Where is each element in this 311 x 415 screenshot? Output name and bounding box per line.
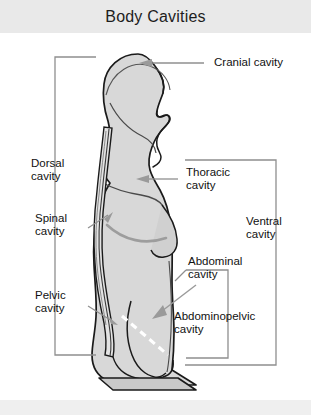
- label-spinal-cavity-line1: Spinal: [35, 212, 67, 225]
- label-abdominal-cavity-line2: cavity: [188, 268, 217, 281]
- label-abdominopelvic-cavity-line1: Abdominopelvic: [174, 310, 255, 323]
- label-thoracic-cavity-line2: cavity: [186, 179, 215, 192]
- bottom-bar: [0, 400, 311, 415]
- label-thoracic-cavity-line1: Thoracic: [186, 166, 230, 179]
- label-cranial-cavity: Cranial cavity: [214, 56, 283, 69]
- label-ventral-cavity-line1: Ventral: [246, 215, 282, 228]
- abdominal-leader-line: [175, 270, 186, 281]
- title-bar: Body Cavities: [0, 0, 311, 33]
- base-platform: [99, 378, 196, 390]
- label-dorsal-cavity-line1: Dorsal: [31, 157, 64, 170]
- page-title: Body Cavities: [0, 0, 311, 33]
- label-ventral-cavity-line2: cavity: [246, 228, 275, 241]
- label-abdominopelvic-cavity-line2: cavity: [174, 323, 203, 336]
- label-spinal-cavity-line2: cavity: [35, 225, 64, 238]
- label-abdominal-cavity-line1: Abdominal: [188, 255, 242, 268]
- figure-area: Cranial cavity Dorsal cavity Spinal cavi…: [0, 33, 311, 400]
- label-dorsal-cavity-line2: cavity: [31, 170, 60, 183]
- diagram-page: Body Cavities: [0, 0, 311, 415]
- label-pelvic-cavity-line1: Pelvic: [35, 289, 66, 302]
- label-pelvic-cavity-line2: cavity: [35, 302, 64, 315]
